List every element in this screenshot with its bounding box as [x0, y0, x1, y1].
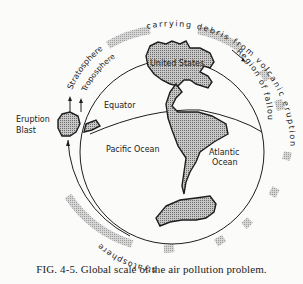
region-of-fallout-label: Region of fallout: [0, 0, 275, 121]
figure-caption: FIG. 4-5. Global scale of the air pollut…: [0, 263, 303, 275]
svg-text:carrying debris from volcanic: carrying debris from volcanic eruption o…: [0, 0, 297, 152]
central-america-landmass: [166, 84, 228, 194]
pacific-ocean-label: Pacific Ocean: [106, 145, 160, 154]
return-arrow-line: [68, 140, 130, 236]
eruption-label-line2: Blast: [16, 126, 36, 135]
eruption-blast-island: [58, 112, 80, 136]
eruption-label-line1: Eruption: [16, 115, 50, 124]
svg-text:Region of fallout: Region of fallout: [0, 0, 275, 121]
global-pollution-diagram: Stratosphere Troposphere Region of fallo…: [0, 0, 303, 284]
atlantic-ocean-label-line2: Ocean: [212, 158, 238, 167]
lower-landmass: [156, 196, 216, 226]
united-states-label: United States: [150, 59, 204, 68]
equator-label: Equator: [104, 101, 135, 110]
outer-band-label: carrying debris from volcanic eruption o…: [0, 0, 297, 152]
small-island: [84, 120, 100, 132]
atlantic-ocean-label-line1: Atlantic: [209, 148, 239, 157]
